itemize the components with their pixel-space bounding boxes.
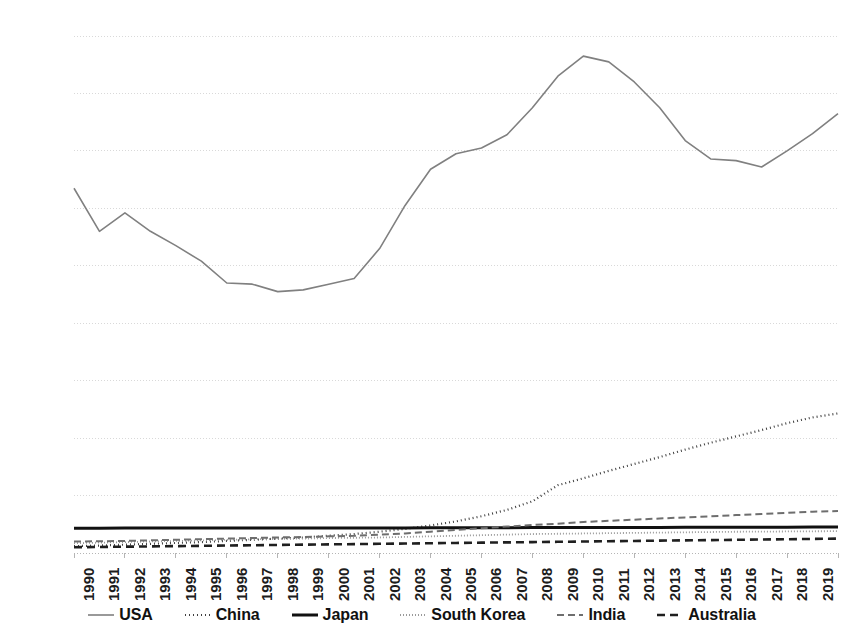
x-axis-label-2016: 2016	[742, 568, 759, 601]
legend-label: South Korea	[431, 606, 525, 624]
x-axis-label-1990: 1990	[80, 568, 97, 601]
x-axis-label-1994: 1994	[182, 568, 199, 601]
legend-label: Australia	[688, 606, 756, 624]
legend-swatch-china-icon	[185, 609, 211, 621]
x-axis-label-2019: 2019	[819, 568, 836, 601]
legend-swatch-usa-icon	[88, 609, 114, 621]
x-axis-label-2013: 2013	[666, 568, 683, 601]
x-axis-label-2002: 2002	[386, 568, 403, 601]
x-axis-label-1999: 1999	[309, 568, 326, 601]
chart-container: 0100,000200,000300,000400,000500,000600,…	[0, 0, 844, 630]
legend-item-india[interactable]: India	[557, 606, 625, 624]
legend-swatch-south-korea-icon	[400, 609, 426, 621]
x-axis-label-2014: 2014	[691, 568, 708, 601]
x-axis-label-2005: 2005	[462, 568, 479, 601]
x-axis-label-1997: 1997	[258, 568, 275, 601]
chart-legend: USAChinaJapanSouth KoreaIndiaAustralia	[0, 600, 844, 630]
legend-item-south-korea[interactable]: South Korea	[400, 606, 525, 624]
x-axis-label-1993: 1993	[156, 568, 173, 601]
legend-label: India	[588, 606, 625, 624]
legend-item-japan[interactable]: Japan	[292, 606, 369, 624]
x-axis-label-2011: 2011	[615, 568, 632, 601]
legend-item-australia[interactable]: Australia	[657, 606, 756, 624]
x-axis-label-1991: 1991	[105, 568, 122, 601]
legend-label: China	[216, 606, 260, 624]
legend-label: Japan	[323, 606, 369, 624]
x-axis-label-1995: 1995	[207, 568, 224, 601]
x-axis-label-1998: 1998	[284, 568, 301, 601]
legend-item-china[interactable]: China	[185, 606, 260, 624]
legend-swatch-japan-icon	[292, 609, 318, 621]
x-axis-label-2000: 2000	[335, 568, 352, 601]
x-axis-label-2004: 2004	[437, 568, 454, 601]
x-axis-label-1992: 1992	[131, 568, 148, 601]
x-axis-label-2010: 2010	[589, 568, 606, 601]
x-axis-label-2009: 2009	[564, 568, 581, 601]
x-axis-label-2007: 2007	[513, 568, 530, 601]
legend-swatch-australia-icon	[657, 609, 683, 621]
x-axis-label-2017: 2017	[768, 568, 785, 601]
x-axis-label-2003: 2003	[411, 568, 428, 601]
x-axis-label-1996: 1996	[233, 568, 250, 601]
x-axis-tick-labels: 1990199119921993199419951996199719981999…	[0, 0, 844, 630]
x-axis-label-2015: 2015	[717, 568, 734, 601]
x-axis-label-2012: 2012	[640, 568, 657, 601]
x-axis-label-2018: 2018	[793, 568, 810, 601]
legend-item-usa[interactable]: USA	[88, 606, 152, 624]
x-axis-label-2008: 2008	[538, 568, 555, 601]
x-axis-label-2006: 2006	[487, 568, 504, 601]
legend-label: USA	[119, 606, 152, 624]
legend-swatch-india-icon	[557, 609, 583, 621]
x-axis-label-2001: 2001	[360, 568, 377, 601]
